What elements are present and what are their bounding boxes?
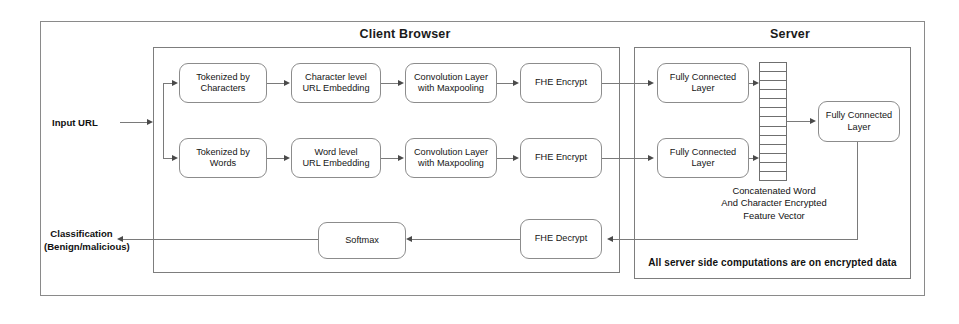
connector-char-tok-to-embed-arrowhead xyxy=(284,80,290,86)
input-url-label: Input URL xyxy=(52,117,140,130)
connector-softmax-to-classification xyxy=(122,239,318,240)
connector-char-embed-to-conv-arrowhead xyxy=(398,80,404,86)
node-fhe-encrypt-char[interactable]: FHE Encrypt xyxy=(520,63,602,103)
connector-char-embed-to-conv xyxy=(381,83,399,84)
feature-vector-cell xyxy=(760,99,786,108)
connector-word-embed-to-conv xyxy=(381,158,399,159)
connector-word-conv-to-encrypt-arrowhead xyxy=(513,155,519,161)
feature-vector-cell xyxy=(760,154,786,163)
connector-word-embed-to-conv-arrowhead xyxy=(398,155,404,161)
input-split-bus xyxy=(163,83,164,158)
node-convolution-layer-maxpooling-char[interactable]: Convolution Layer with Maxpooling xyxy=(405,63,497,103)
feature-vector-cell xyxy=(760,63,786,72)
feature-vector-cell xyxy=(760,163,786,172)
classification-output-label: Classification (Benign/malicious) xyxy=(44,228,119,253)
node-fully-connected-layer-char[interactable]: Fully Connected Layer xyxy=(657,63,749,103)
client-browser-title: Client Browser xyxy=(300,27,510,41)
input-url-connector xyxy=(120,122,148,123)
node-tokenized-by-characters[interactable]: Tokenized by Characters xyxy=(179,63,267,103)
connector-word-tok-to-embed-arrowhead xyxy=(284,155,290,161)
feature-vector-cell xyxy=(760,90,786,99)
connector-char-encrypt-to-server-fc xyxy=(602,83,649,84)
connector-fc-final-to-decrypt-arrowhead xyxy=(607,236,613,242)
connector-char-conv-to-encrypt xyxy=(497,83,514,84)
feature-vector-cell xyxy=(760,81,786,90)
connector-char-tok-to-embed xyxy=(267,83,285,84)
node-convolution-layer-maxpooling-word[interactable]: Convolution Layer with Maxpooling xyxy=(405,138,497,178)
server-encrypted-note: All server side computations are on encr… xyxy=(640,256,905,269)
node-word-level-url-embedding[interactable]: Word level URL Embedding xyxy=(291,138,381,178)
concatenated-feature-vector xyxy=(759,62,787,181)
feature-vector-cell xyxy=(760,117,786,126)
connector-vector-to-fc-final-arrowhead xyxy=(810,118,816,124)
connector-word-encrypt-to-server-fc xyxy=(602,158,649,159)
feature-vector-cell xyxy=(760,127,786,136)
connector-word-tok-to-embed xyxy=(267,158,285,159)
node-fhe-decrypt[interactable]: FHE Decrypt xyxy=(520,219,602,259)
node-character-level-url-embedding[interactable]: Character level URL Embedding xyxy=(291,63,381,103)
feature-vector-cell xyxy=(760,172,786,180)
connector-char-encrypt-to-server-fc-arrowhead xyxy=(648,80,654,86)
feature-vector-cell xyxy=(760,136,786,145)
input-branch-words-arrowhead xyxy=(172,155,178,161)
connector-fc-final-down xyxy=(857,142,858,239)
connector-decrypt-to-softmax xyxy=(410,239,520,240)
input-url-arrowhead xyxy=(147,119,153,125)
feature-vector-caption: Concatenated Word And Character Encrypte… xyxy=(700,185,848,222)
server-title: Server xyxy=(700,27,880,41)
connector-word-encrypt-to-server-fc-arrowhead xyxy=(648,155,654,161)
connector-vector-to-fc-final xyxy=(787,121,812,122)
connector-decrypt-to-softmax-arrowhead xyxy=(406,236,412,242)
node-softmax[interactable]: Softmax xyxy=(318,222,406,259)
node-fhe-encrypt-word[interactable]: FHE Encrypt xyxy=(520,138,602,178)
connector-fc-final-to-decrypt xyxy=(612,239,858,240)
node-tokenized-by-words[interactable]: Tokenized by Words xyxy=(179,138,267,178)
feature-vector-cell xyxy=(760,145,786,154)
connector-word-conv-to-encrypt xyxy=(497,158,514,159)
feature-vector-cell xyxy=(760,108,786,117)
diagram-canvas: Client Browser Server Input URL Tokenize… xyxy=(0,0,959,324)
connector-char-conv-to-encrypt-arrowhead xyxy=(513,80,519,86)
node-fully-connected-layer-word[interactable]: Fully Connected Layer xyxy=(657,138,749,178)
input-branch-characters-arrowhead xyxy=(172,80,178,86)
feature-vector-cell xyxy=(760,72,786,81)
node-fully-connected-layer-final[interactable]: Fully Connected Layer xyxy=(818,101,900,142)
